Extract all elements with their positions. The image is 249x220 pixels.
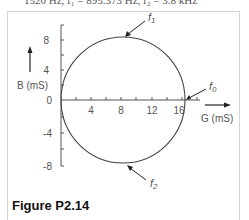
admittance-chart: 8 4 0 -4 -8 4 8 12 16 B (mS) G (mS) f1 f… <box>0 0 249 220</box>
x-axis-label: G (mS) <box>201 113 233 124</box>
f0-pointer-icon <box>186 89 206 100</box>
figure-caption: Figure P2.14 <box>12 198 89 213</box>
g-axis-arrow-icon <box>205 103 231 108</box>
y-tick-label: 0 <box>46 95 52 106</box>
f2-pointer-icon <box>127 165 146 180</box>
y-tick-label: 8 <box>43 35 49 46</box>
y-tick-label: -8 <box>43 161 52 172</box>
b-axis-arrow-icon <box>28 46 33 72</box>
f2-label: f2 <box>150 177 158 191</box>
y-tick-label: 4 <box>43 65 49 76</box>
x-tick-label: 8 <box>118 105 124 116</box>
x-axis <box>61 97 200 100</box>
x-tick-label: 4 <box>88 105 94 116</box>
x-tick-label: 12 <box>146 105 158 116</box>
f0-label: f0 <box>209 80 217 94</box>
y-tick-label: -4 <box>43 128 52 139</box>
y-axis-label: B (mS) <box>17 80 48 91</box>
y-tick-labels: 8 4 0 -4 -8 <box>43 35 52 172</box>
f1-label: f1 <box>148 11 156 25</box>
f1-pointer-icon <box>125 21 145 37</box>
x-tick-labels: 4 8 12 16 <box>88 105 185 116</box>
